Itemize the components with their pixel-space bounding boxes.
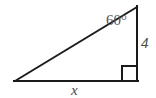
base-side-label: x	[71, 83, 78, 98]
right-angle-marker-icon	[122, 66, 137, 81]
triangle-drawing	[0, 0, 156, 98]
vertical-side-label: 4	[141, 36, 149, 51]
geometry-diagram: 60° 4 x	[0, 0, 156, 98]
angle-label: 60°	[106, 13, 127, 28]
